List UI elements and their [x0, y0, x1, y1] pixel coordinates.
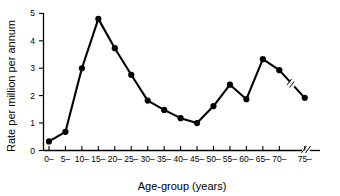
x-tick-label: 70–: [272, 154, 286, 164]
data-point: [276, 67, 282, 73]
y-tick-label: 2: [30, 91, 35, 101]
data-point: [178, 115, 184, 121]
line-chart: Rate per million per annum 0 1 2 3 4 5: [0, 0, 340, 196]
data-point: [194, 120, 200, 126]
data-point: [95, 16, 101, 22]
data-point: [227, 82, 233, 88]
y-axis-title: Rate per million per annum: [5, 20, 17, 152]
x-tick-label: 0–: [44, 154, 54, 164]
x-tick-label: 25–: [124, 154, 138, 164]
x-tick-label: 45–: [190, 154, 204, 164]
y-tick-label: 5: [30, 8, 35, 18]
x-tick-label: 60–: [239, 154, 253, 164]
y-tick-marks: [39, 13, 44, 150]
x-tick-label: 20–: [108, 154, 122, 164]
x-tick-label: 5–: [61, 154, 71, 164]
y-tick-label: 4: [30, 36, 35, 46]
y-tick-label: 1: [30, 118, 35, 128]
data-point: [145, 98, 151, 104]
y-tick-label: 0: [30, 146, 35, 156]
y-tick-label: 3: [30, 63, 35, 73]
x-tick-labels: 0–5–10–15–20–25–30–35–40–45–50–55–60–65–…: [44, 154, 312, 164]
x-tick-marks: [49, 146, 305, 151]
y-tick-labels: 0 1 2 3 4 5: [30, 8, 35, 155]
data-series-line: [49, 19, 305, 142]
data-point: [260, 56, 266, 62]
data-series-points: [46, 16, 308, 145]
x-tick-label: 65–: [256, 154, 270, 164]
data-point: [161, 107, 167, 113]
data-point: [128, 72, 134, 78]
x-tick-label: 10–: [75, 154, 89, 164]
x-tick-label: 75–: [298, 154, 312, 164]
data-point: [79, 65, 85, 71]
data-point: [302, 95, 308, 101]
data-point: [46, 138, 52, 144]
x-tick-label: 15–: [91, 154, 105, 164]
x-tick-label: 40–: [174, 154, 188, 164]
x-tick-label: 55–: [223, 154, 237, 164]
chart-container: Rate per million per annum 0 1 2 3 4 5: [0, 0, 340, 196]
data-point: [112, 45, 118, 51]
series-polyline: [49, 19, 305, 142]
x-axis-title: Age-group (years): [138, 180, 227, 192]
data-point: [210, 103, 216, 109]
x-tick-label: 50–: [206, 154, 220, 164]
data-point: [62, 129, 68, 135]
data-point: [243, 96, 249, 102]
x-tick-label: 35–: [157, 154, 171, 164]
x-tick-label: 30–: [141, 154, 155, 164]
